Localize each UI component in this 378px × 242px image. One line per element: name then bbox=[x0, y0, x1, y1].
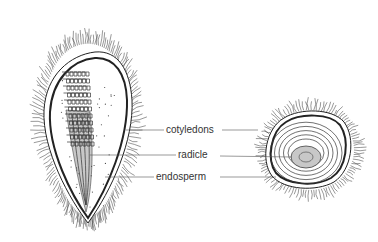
hair bbox=[264, 123, 273, 128]
hair bbox=[81, 215, 83, 224]
endosperm-dot bbox=[78, 173, 79, 174]
hair bbox=[302, 101, 304, 110]
hair bbox=[351, 132, 358, 135]
hair bbox=[55, 186, 61, 198]
hair bbox=[264, 127, 271, 131]
endosperm-dot bbox=[91, 175, 92, 176]
endosperm-dot bbox=[61, 100, 62, 101]
endosperm-dot bbox=[67, 100, 68, 101]
hair bbox=[299, 189, 302, 200]
hair bbox=[45, 161, 52, 167]
hair bbox=[80, 30, 81, 45]
hair bbox=[353, 138, 365, 141]
hair bbox=[131, 106, 143, 111]
hair bbox=[102, 209, 104, 221]
hair bbox=[352, 137, 359, 139]
hair bbox=[130, 126, 145, 128]
endosperm-dot bbox=[105, 163, 106, 164]
endosperm-dot bbox=[78, 202, 79, 203]
hair bbox=[278, 108, 285, 117]
hair bbox=[331, 185, 336, 193]
hair bbox=[100, 30, 102, 46]
hair bbox=[328, 186, 334, 197]
endosperm-dot bbox=[99, 107, 100, 108]
hair bbox=[33, 102, 45, 108]
hair bbox=[353, 159, 364, 161]
hair bbox=[121, 52, 128, 65]
hair bbox=[95, 214, 96, 225]
endosperm-dot bbox=[69, 156, 70, 157]
hair bbox=[78, 34, 79, 45]
hair bbox=[129, 136, 141, 138]
label-cotyledons: cotyledons bbox=[166, 124, 214, 136]
hair bbox=[351, 134, 359, 137]
hair bbox=[105, 204, 107, 213]
endosperm-dot bbox=[76, 187, 77, 188]
hair bbox=[354, 144, 365, 146]
hair bbox=[354, 154, 361, 155]
hair bbox=[341, 179, 346, 184]
hair bbox=[353, 156, 364, 158]
hair bbox=[34, 132, 46, 134]
hair bbox=[37, 146, 49, 151]
endosperm-dot bbox=[111, 96, 112, 97]
hair bbox=[30, 104, 45, 111]
hair bbox=[90, 35, 91, 44]
hair bbox=[73, 31, 76, 46]
hair bbox=[321, 189, 324, 200]
hair bbox=[69, 37, 72, 48]
label-endosperm: endosperm bbox=[156, 171, 206, 183]
hair bbox=[316, 190, 318, 200]
hair bbox=[93, 35, 94, 45]
endosperm-dot bbox=[104, 87, 105, 88]
endosperm-dot bbox=[108, 174, 109, 175]
endosperm-dot bbox=[101, 124, 102, 125]
endosperm-dot bbox=[76, 184, 77, 185]
transverse-section bbox=[266, 111, 351, 188]
hair bbox=[289, 186, 292, 192]
endosperm-dot bbox=[79, 193, 80, 194]
hair bbox=[76, 212, 78, 228]
hair bbox=[130, 133, 139, 134]
endosperm-dot bbox=[71, 160, 72, 161]
hair bbox=[56, 51, 59, 59]
hair bbox=[41, 73, 48, 82]
hair bbox=[307, 97, 309, 110]
hair bbox=[34, 140, 48, 143]
endosperm-dot bbox=[93, 165, 94, 166]
hair bbox=[117, 47, 122, 60]
hair bbox=[294, 188, 296, 194]
hair bbox=[258, 151, 266, 153]
hair bbox=[259, 142, 266, 144]
hair bbox=[339, 180, 344, 185]
endosperm-dot bbox=[104, 135, 105, 136]
endosperm-dot bbox=[110, 94, 111, 95]
hair bbox=[347, 172, 353, 176]
hair bbox=[270, 120, 276, 124]
hair bbox=[39, 152, 49, 158]
endosperm-dot bbox=[61, 112, 62, 113]
hair bbox=[351, 163, 361, 166]
hair bbox=[272, 119, 277, 123]
hair bbox=[39, 143, 48, 146]
radicle-core bbox=[299, 152, 313, 162]
hair bbox=[296, 101, 299, 112]
seed-diagram bbox=[0, 0, 378, 242]
hair bbox=[321, 101, 324, 111]
hair bbox=[131, 117, 147, 121]
hair bbox=[354, 152, 364, 154]
hair bbox=[255, 147, 266, 148]
hair bbox=[69, 204, 72, 213]
hair bbox=[97, 213, 99, 228]
hair bbox=[262, 134, 268, 136]
hair bbox=[314, 98, 316, 110]
hair bbox=[311, 101, 312, 110]
hair bbox=[73, 210, 75, 224]
hair bbox=[85, 28, 87, 44]
hair bbox=[349, 129, 355, 132]
hair bbox=[354, 150, 366, 151]
hair bbox=[258, 149, 266, 150]
hair bbox=[303, 190, 304, 197]
hair bbox=[76, 211, 78, 220]
hair bbox=[129, 140, 138, 142]
